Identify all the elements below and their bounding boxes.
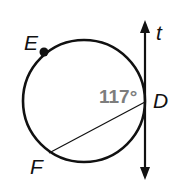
- label-t: t: [156, 21, 163, 44]
- label-D: D: [153, 89, 168, 112]
- arrow-up-icon: [140, 20, 150, 33]
- label-F: F: [30, 155, 44, 178]
- diagram-canvas: E t D F 117°: [0, 0, 185, 187]
- geometry-diagram: E t D F 117°: [0, 0, 185, 187]
- angle-label: 117°: [99, 86, 137, 107]
- label-E: E: [24, 31, 39, 54]
- arrow-down-icon: [140, 167, 150, 180]
- chord-DF: [49, 102, 145, 153]
- point-E-dot: [40, 48, 49, 57]
